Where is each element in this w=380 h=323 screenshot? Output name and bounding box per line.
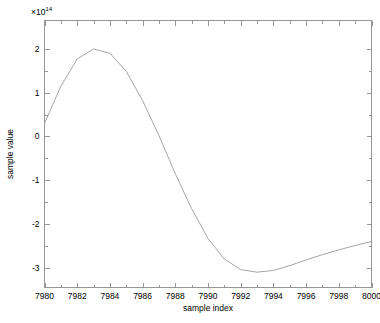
x-tick-label: 7996 [297, 291, 316, 301]
minor-tick-group [45, 21, 372, 288]
y-tick-label: 0 [35, 131, 40, 141]
major-tick-group [45, 21, 373, 288]
y-tick-label: 2 [35, 44, 40, 54]
x-tick-label-group: 7980798279847986798879907992799479967998… [35, 291, 380, 301]
y-axis-title: sample value [5, 129, 15, 179]
x-axis-title: sample index [183, 303, 234, 313]
x-tick-label: 7986 [133, 291, 152, 301]
y-tick-label: -3 [32, 263, 40, 273]
x-tick-label: 7982 [68, 291, 87, 301]
y-tick-label: 1 [35, 88, 40, 98]
plot-frame [45, 21, 372, 288]
x-tick-label: 7980 [35, 291, 54, 301]
figure-canvas: 7980798279847986798879907992799479967998… [0, 0, 380, 323]
chart-plot: 7980798279847986798879907992799479967998… [0, 0, 380, 323]
data-series-line [45, 49, 372, 272]
x-tick-label: 7988 [166, 291, 185, 301]
x-tick-label: 7992 [231, 291, 250, 301]
x-tick-label: 7994 [264, 291, 283, 301]
x-tick-label: 7998 [329, 291, 348, 301]
x-tick-label: 7990 [199, 291, 218, 301]
x-tick-label: 7984 [100, 291, 119, 301]
y-axis-exponent-label: ×1014 [31, 6, 53, 17]
y-tick-label-group: 210-1-2-3 [32, 44, 40, 273]
y-tick-label: -2 [32, 219, 40, 229]
x-tick-label: 8000 [362, 291, 380, 301]
y-tick-label: -1 [32, 175, 40, 185]
